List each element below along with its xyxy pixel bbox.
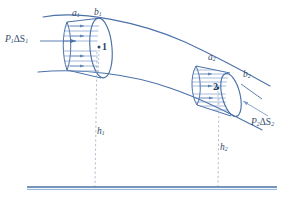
- baseline: [27, 187, 277, 189]
- label-a1: a1: [72, 9, 80, 19]
- pipe-lower-wall: [38, 71, 262, 130]
- label-b1: b1: [94, 8, 102, 18]
- cylinder2: [192, 66, 245, 119]
- fluid-flow-diagram: a1 b1 a2 b2 1 2 P1ΔS1 P2ΔS2 h1 h2: [0, 0, 295, 204]
- label-h2: h2: [220, 143, 228, 153]
- label-point-1: 1: [102, 42, 107, 52]
- label-h1: h1: [97, 127, 105, 137]
- label-b2: b2: [243, 70, 251, 80]
- label-pressure-force-1: P1ΔS1: [5, 35, 28, 45]
- force-arrow-2: [243, 101, 268, 116]
- label-point-2: 2: [213, 82, 218, 92]
- leader-b2: [241, 84, 262, 99]
- label-a2: a2: [208, 53, 216, 63]
- pipe-upper-wall: [43, 15, 270, 86]
- cylinder1-flow-arrows: [70, 26, 84, 66]
- label-pressure-force-2: P2ΔS2: [251, 118, 274, 128]
- cylinder2-flow-arrows: [199, 74, 213, 98]
- diagram-canvas: [0, 0, 295, 204]
